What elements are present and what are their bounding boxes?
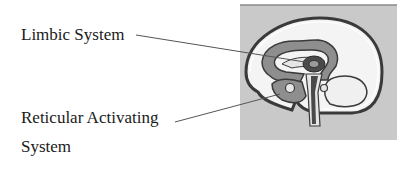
- reticular-activating-label-line2: System: [21, 137, 71, 157]
- limbic-system-label: Limbic System: [21, 25, 124, 45]
- reticular-activating-label-line1: Reticular Activating: [21, 108, 158, 128]
- cerebellum: [325, 76, 367, 107]
- amygdala-node: [286, 84, 295, 93]
